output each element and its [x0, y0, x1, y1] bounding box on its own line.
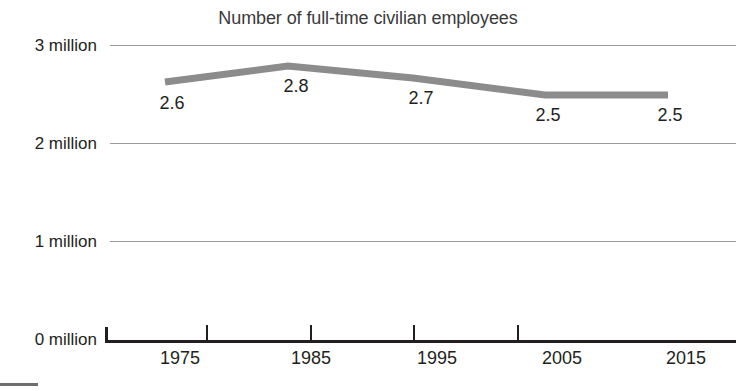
- x-axis-label-1985: 1985: [291, 348, 331, 369]
- data-label-1995: 2.7: [408, 88, 433, 109]
- y-axis-label-0-million: 0 million: [1, 331, 97, 348]
- x-axis-label-2005: 2005: [542, 348, 582, 369]
- x-axis-label-2015: 2015: [666, 348, 706, 369]
- data-label-2015: 2.5: [657, 105, 682, 126]
- x-axis-label-1975: 1975: [160, 348, 200, 369]
- y-axis-label-1-million: 1 million: [1, 233, 97, 250]
- chart-title: Number of full-time civilian employees: [0, 8, 736, 29]
- y-axis-label-3-million: 3 million: [1, 37, 97, 54]
- gridline-2-million: [110, 143, 736, 144]
- gridline-1-million: [110, 241, 736, 242]
- x-axis-label-1995: 1995: [417, 348, 457, 369]
- x-axis-tick-4: [517, 325, 519, 341]
- x-axis-line: [105, 340, 736, 343]
- series-line-full-time-civilian-employees: [0, 0, 736, 391]
- x-axis-tick-3: [413, 325, 415, 341]
- y-axis-label-2-million: 2 million: [1, 135, 97, 152]
- data-label-1985: 2.8: [283, 76, 308, 97]
- data-label-1975: 2.6: [159, 93, 184, 114]
- gridline-3-million: [110, 45, 736, 46]
- chart-container: Number of full-time civilian employees 3…: [0, 0, 736, 391]
- data-label-2005: 2.5: [535, 105, 560, 126]
- x-axis-tick-1: [206, 325, 208, 341]
- page-edge-mark: [0, 383, 38, 386]
- x-axis-tick-2: [310, 325, 312, 341]
